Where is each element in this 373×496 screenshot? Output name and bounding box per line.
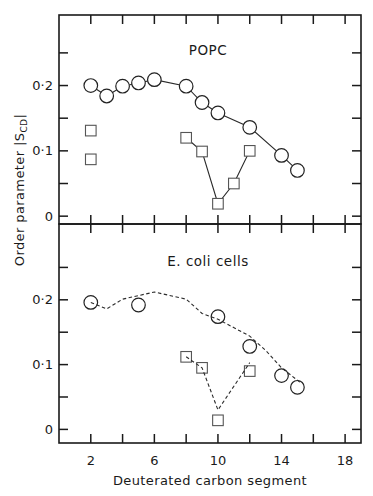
circle-point bbox=[291, 380, 305, 394]
square-point bbox=[197, 146, 208, 157]
circle-point bbox=[100, 89, 114, 103]
panel-ecoli: 00·10·2E. coli cells bbox=[32, 224, 361, 443]
series-squares bbox=[181, 132, 255, 209]
circle-point bbox=[243, 340, 257, 354]
y-axis-label-subscript: CD bbox=[19, 119, 29, 133]
circle-point bbox=[179, 79, 193, 93]
series-squares-isolated bbox=[85, 125, 96, 164]
square-point bbox=[85, 125, 96, 136]
y-tick-label: 0·1 bbox=[32, 143, 53, 158]
series-squares bbox=[181, 352, 255, 426]
square-point bbox=[213, 415, 224, 426]
y-tick-label: 0·2 bbox=[32, 78, 53, 93]
y-tick-label: 0·1 bbox=[32, 357, 53, 372]
y-tick-label: 0 bbox=[45, 422, 53, 437]
square-point bbox=[85, 154, 96, 165]
square-point bbox=[244, 146, 255, 157]
x-tick-label: 14 bbox=[273, 453, 290, 468]
y-tick-label: 0 bbox=[45, 209, 53, 224]
circle-point bbox=[211, 106, 225, 120]
circles-fit-curve-line bbox=[91, 292, 301, 383]
panel-label: POPC bbox=[189, 42, 227, 58]
circle-point bbox=[116, 79, 130, 93]
circle-point bbox=[84, 79, 98, 93]
square-point bbox=[181, 132, 192, 143]
circle-point bbox=[132, 76, 146, 90]
x-tick-label: 2 bbox=[87, 453, 95, 468]
panel-popc: 00·10·2POPC bbox=[32, 15, 361, 224]
series-circles bbox=[84, 73, 304, 177]
y-tick-label: 0·2 bbox=[32, 292, 53, 307]
circle-point bbox=[148, 73, 162, 87]
order-parameter-chart: 00·10·2POPC 00·10·2E. coli cells 2610141… bbox=[0, 0, 373, 496]
square-point bbox=[229, 178, 240, 189]
y-axis-label-main: Order parameter |S bbox=[12, 133, 27, 267]
circle-point bbox=[291, 164, 305, 178]
x-tick-label: 18 bbox=[337, 453, 354, 468]
squares-fit-curve-line bbox=[186, 357, 250, 410]
y-axis-label: Order parameter |SCD| bbox=[12, 114, 29, 266]
square-point bbox=[213, 198, 224, 209]
y-axis-label-suffix: | bbox=[12, 114, 27, 119]
series-circles-fit-curve bbox=[91, 292, 301, 383]
circle-point bbox=[275, 149, 289, 163]
x-axis: 26101418 bbox=[87, 453, 354, 468]
circle-point bbox=[132, 298, 146, 312]
x-tick-label: 10 bbox=[210, 453, 227, 468]
circle-point bbox=[195, 96, 209, 110]
circle-point bbox=[243, 121, 257, 135]
x-axis-label: Deuterated carbon segment bbox=[113, 473, 307, 488]
series-circles bbox=[84, 296, 304, 394]
series-squares-fit-curve bbox=[186, 357, 250, 410]
x-tick-label: 6 bbox=[150, 453, 158, 468]
panel-label: E. coli cells bbox=[167, 253, 248, 269]
circle-point bbox=[275, 369, 289, 383]
squares-line bbox=[186, 138, 250, 204]
